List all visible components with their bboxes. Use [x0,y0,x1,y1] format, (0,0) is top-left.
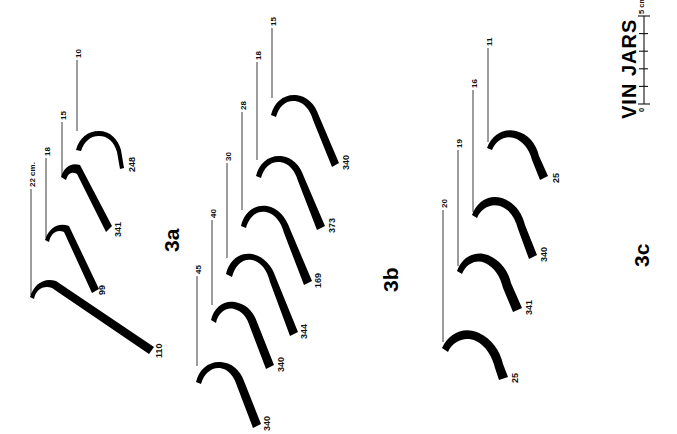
catalog-id-label: 340 [539,247,549,262]
scale-min-label: 0 [637,108,646,112]
measurement-label: 15 [269,17,278,26]
catalog-id-label: 341 [113,222,123,237]
measurement-label: 18 [254,51,263,60]
measurement-label: 10 [74,49,83,58]
group-label-3c: 3c [630,244,654,267]
group-label-3a: 3a [160,229,184,252]
measurement-label: 28 [239,101,248,110]
measurement-label: 22 cm. [28,162,37,187]
figure-title: VIN JARS [618,19,641,119]
catalog-id-label: 340 [262,416,272,431]
catalog-id-label: 25 [551,173,561,183]
measurement-label: 18 [43,147,52,156]
measurement-label: 11 [485,38,494,46]
catalog-id-label: 99 [97,285,107,295]
catalog-id-label: 341 [524,300,534,315]
catalog-id-label: 169 [313,273,323,288]
group-3c-leaders [443,48,488,342]
catalog-id-label: 344 [299,324,309,339]
catalog-id-label: 340 [276,357,286,372]
measurement-label: 30 [224,152,233,161]
measurement-label: 45 [194,265,203,274]
plate-canvas: 10 15 18 22 cm. 248 341 99 110 3a 15 18 … [0,0,677,434]
catalog-id-label: 110 [154,343,164,358]
group-3a-leaders [31,60,77,295]
group-3b-profiles [196,95,339,428]
measurement-label: 20 [440,199,449,208]
group-3b-leaders [197,28,272,366]
catalog-id-label: 25 [510,373,520,383]
measurement-label: 40 [209,209,218,218]
measurement-label: 16 [470,79,479,88]
catalog-id-label: 340 [341,155,351,170]
scale-max-label: 5 cm. [637,0,646,14]
measurement-label: 15 [59,111,68,120]
catalog-id-label: 248 [127,157,137,172]
vessel-profile-drawings [0,0,677,434]
group-label-3b: 3b [379,267,403,292]
measurement-label: 19 [455,139,464,148]
catalog-id-label: 373 [327,218,337,233]
